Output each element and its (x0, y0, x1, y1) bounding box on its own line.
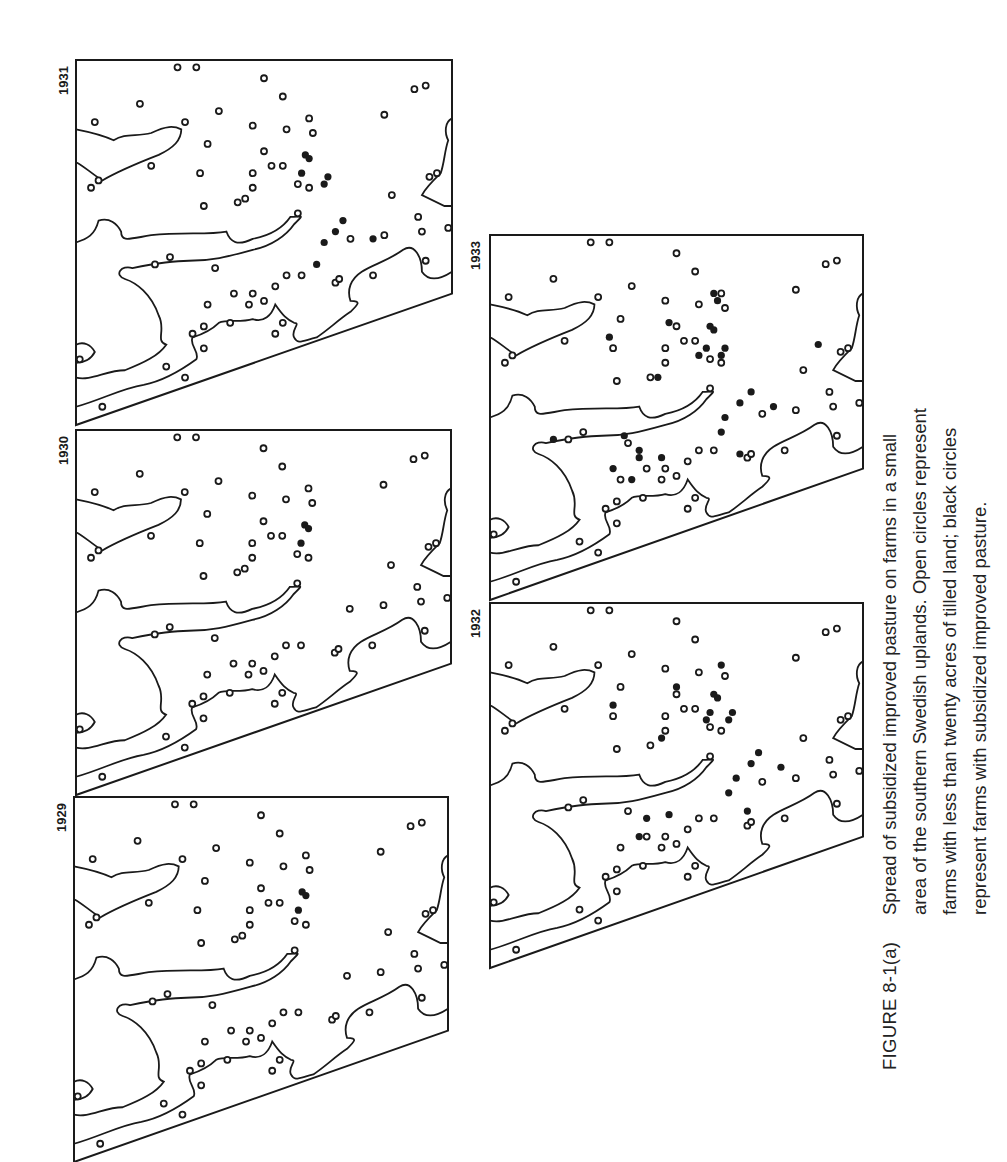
farm-adopter-circle (714, 694, 721, 701)
farm-open-circle (685, 506, 691, 512)
farm-open-circle (823, 261, 829, 267)
farm-adopter-circle (302, 892, 309, 899)
farm-open-circle (310, 130, 316, 136)
farm-open-circle (562, 706, 568, 712)
farm-open-circle (336, 276, 342, 282)
coastline (74, 953, 298, 1115)
farm-open-circle (202, 878, 208, 884)
farm-open-circle (212, 265, 218, 271)
farm-open-circle (662, 713, 668, 719)
farm-adopter-circle (725, 789, 732, 796)
farm-open-circle (272, 331, 278, 337)
farm-open-circle (800, 367, 806, 373)
farm-open-circle (269, 163, 275, 169)
farm-open-circle (414, 584, 420, 590)
farm-open-circle (618, 845, 624, 851)
farm-open-circle (411, 456, 417, 462)
farm-open-circle (261, 518, 267, 524)
farm-open-circle (292, 947, 298, 953)
farm-open-circle (674, 618, 680, 624)
farm-open-circle (280, 1009, 286, 1015)
farm-open-circle (662, 360, 668, 366)
year-label: 1933 (468, 241, 483, 270)
farm-open-circle (381, 602, 387, 608)
farm-open-circle (674, 323, 680, 329)
farm-open-circle (434, 170, 440, 176)
farm-open-circle (227, 690, 233, 696)
farm-open-circle (415, 214, 421, 220)
farm-open-circle (298, 642, 304, 648)
farm-open-circle (167, 624, 173, 630)
farm-open-circle (423, 258, 429, 264)
map-panel-1933: 1933 (490, 235, 863, 600)
farm-open-circle (174, 434, 180, 440)
farm-open-circle (793, 287, 799, 293)
farm-open-circle (629, 283, 635, 289)
farm-open-circle (838, 349, 844, 355)
farm-open-circle (191, 801, 197, 807)
farm-open-circle (246, 672, 252, 678)
farm-adopter-circle (755, 749, 762, 756)
farm-open-circle (93, 914, 99, 920)
farm-open-circle (696, 669, 702, 675)
farm-open-circle (299, 272, 305, 278)
farm-open-circle (163, 364, 169, 370)
coastline (76, 216, 301, 378)
farm-open-circle (309, 500, 315, 506)
farm-open-circle (513, 947, 519, 953)
farm-open-circle (261, 445, 267, 451)
farm-open-circle (99, 404, 105, 410)
farm-adopter-circle (718, 352, 725, 359)
farm-open-circle (182, 745, 188, 751)
farm-open-circle (856, 768, 862, 774)
farm-open-circle (167, 254, 173, 260)
farm-adopter-circle (654, 374, 661, 381)
farm-open-circle (385, 929, 391, 935)
farm-open-circle (418, 599, 424, 605)
farm-open-circle (550, 644, 556, 650)
farm-open-circle (610, 345, 616, 351)
farm-open-circle (88, 555, 94, 561)
farm-open-circle (618, 477, 624, 483)
farm-open-circle (588, 239, 594, 245)
coastline (418, 855, 448, 943)
farm-open-circle (595, 294, 601, 300)
farm-open-circle (845, 345, 851, 351)
farm-open-circle (247, 1028, 253, 1034)
farm-open-circle (228, 1028, 234, 1034)
farm-open-circle (696, 815, 702, 821)
farm-open-circle (204, 672, 210, 678)
farm-open-circle (782, 815, 788, 821)
farm-adopter-circle (710, 326, 717, 333)
farm-open-circle (577, 907, 583, 913)
farm-open-circle (381, 232, 387, 238)
farm-open-circle (148, 533, 154, 539)
farm-open-circle (722, 305, 728, 311)
farm-open-circle (550, 276, 556, 282)
farm-open-circle (272, 283, 278, 289)
farm-adopter-circle (673, 683, 680, 690)
farm-adopter-circle (628, 476, 635, 483)
farm-open-circle (845, 713, 851, 719)
farm-open-circle (614, 866, 620, 872)
farm-open-circle (279, 690, 285, 696)
farm-open-circle (415, 966, 421, 972)
farm-adopter-circle (710, 290, 717, 297)
farm-open-circle (793, 655, 799, 661)
farm-open-circle (441, 962, 447, 968)
coastline (76, 248, 452, 407)
farm-adopter-circle (658, 734, 665, 741)
farm-open-circle (718, 728, 724, 734)
farm-open-circle (659, 845, 665, 851)
farm-open-circle (198, 940, 204, 946)
farm-open-circle (250, 123, 256, 129)
farm-open-circle (209, 1002, 215, 1008)
map-frame (76, 60, 452, 425)
farm-adopter-circle (725, 716, 732, 723)
farm-adopter-circle (321, 239, 328, 246)
farm-open-circle (506, 662, 512, 668)
farm-open-circle (502, 728, 508, 734)
farm-open-circle (647, 374, 653, 380)
farm-open-circle (606, 607, 612, 613)
farm-open-circle (187, 1068, 193, 1074)
